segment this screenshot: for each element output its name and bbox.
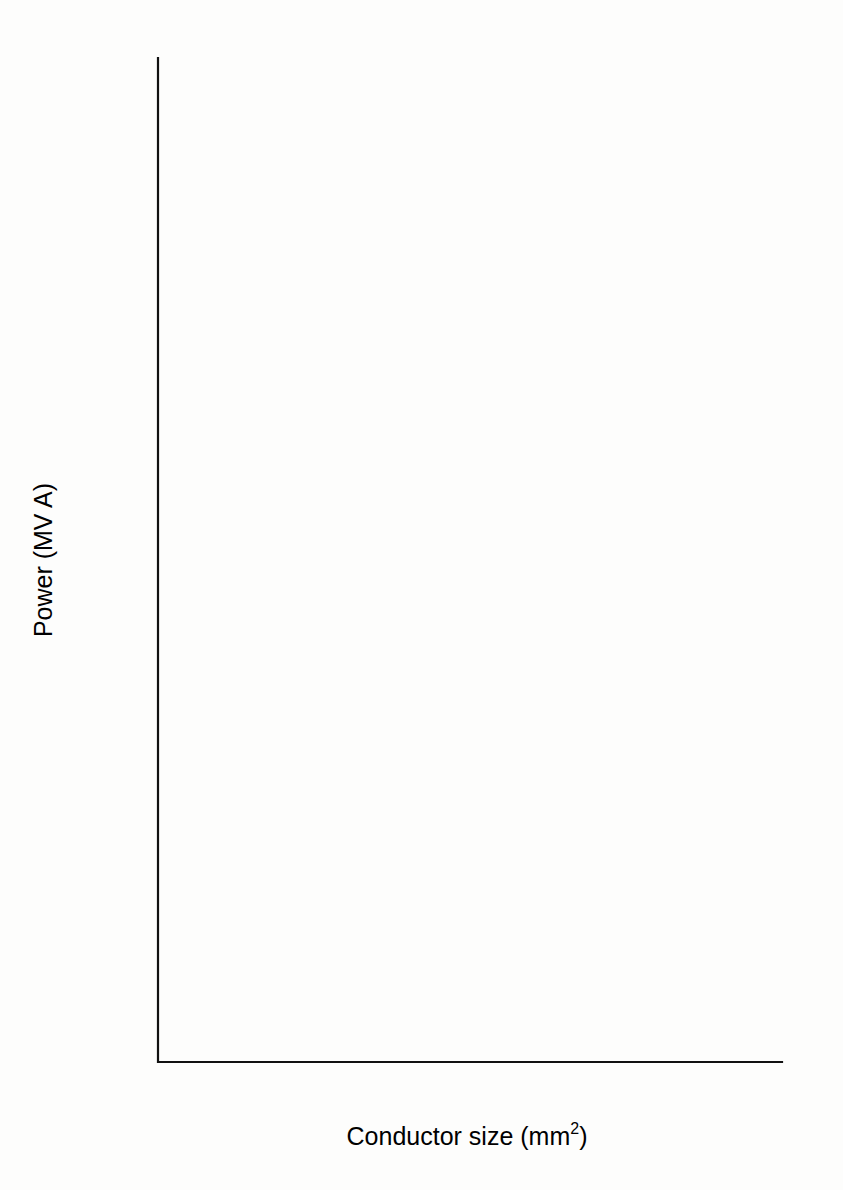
x-axis-title: Conductor size (mm2) [347, 1120, 588, 1150]
x-axis-title-base: Conductor size (mm [347, 1122, 571, 1150]
x-axis-title-superscript: 2 [570, 1120, 579, 1137]
y-axis-title: Power (MV A) [29, 483, 57, 637]
chart-figure: Power (MV A) Conductor size (mm2) [0, 0, 843, 1190]
line-chart: Power (MV A) Conductor size (mm2) [0, 0, 843, 1190]
axes [158, 58, 782, 1062]
axis-spine [158, 58, 782, 1062]
x-axis-title-tail: ) [579, 1122, 587, 1150]
